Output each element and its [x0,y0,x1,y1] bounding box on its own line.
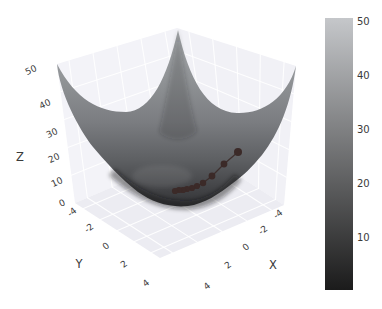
colorbar-tick-labels: 1020304050 [357,16,370,243]
colorbar-tick-label: 20 [357,178,370,189]
descent-point-marker [234,148,242,156]
bowl-sheen [132,165,192,187]
colorbar-group: 1020304050 [325,16,370,291]
y-tick-label: -4 [65,205,78,219]
colorbar-tick-label: 40 [357,70,370,81]
colorbar-tick-label: 10 [357,232,370,243]
descent-point-marker [200,180,206,186]
colorbar-tick-label: 50 [357,16,370,27]
z-tick-label: 50 [24,63,39,77]
x-tick-label: 4 [202,280,213,292]
surface-plot-canvas: 420-2-4-4-202401020304050 Z Y X 10203040… [0,0,382,309]
descent-point-marker [209,173,216,180]
descent-point-marker [172,188,178,194]
z-tick-label: 30 [45,126,60,140]
z-tick-label: 20 [47,151,62,165]
y-tick-label: 2 [119,258,130,269]
figure: 420-2-4-4-202401020304050 Z Y X 10203040… [0,0,382,309]
z-tick-label: 0 [57,197,67,209]
y-tick-label: 0 [101,240,112,252]
x-tick-label: 0 [241,241,252,253]
colorbar [325,18,353,290]
z-tick-label: 40 [38,97,53,111]
y-tick-label: -2 [82,221,95,234]
x-tick-label: -2 [256,223,269,236]
z-axis-label: Z [16,150,24,164]
descent-point-marker [221,161,228,168]
colorbar-tick-label: 30 [357,124,370,135]
y-axis-label: Y [74,257,83,271]
x-axis-label: X [269,258,277,272]
y-tick-label: 4 [141,277,152,289]
z-tick-label: 10 [50,175,65,189]
x-tick-label: 2 [223,259,234,270]
